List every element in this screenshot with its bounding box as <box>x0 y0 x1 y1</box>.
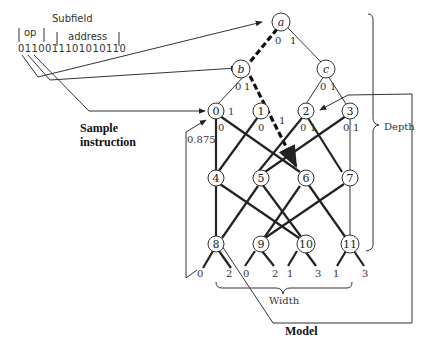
network-node-0: 0 <box>208 103 224 119</box>
svg-text:3: 3 <box>347 105 354 118</box>
svg-text:1: 1 <box>290 35 296 46</box>
svg-text:10: 10 <box>299 238 313 251</box>
model-label: Model <box>285 324 318 338</box>
svg-text:3: 3 <box>362 268 368 279</box>
depth-brace: Depth <box>366 14 415 251</box>
svg-text:1: 1 <box>333 268 339 279</box>
svg-text:0: 0 <box>258 122 264 133</box>
network-node-5: 5 <box>253 170 269 186</box>
tree-node-a: a <box>272 13 290 31</box>
svg-text:7: 7 <box>347 172 354 185</box>
bit-connectors <box>22 22 262 111</box>
svg-text:1: 1 <box>244 81 250 92</box>
svg-text:0: 0 <box>243 268 249 279</box>
network-node-11: 11 <box>341 235 359 253</box>
svg-text:11: 11 <box>343 238 357 251</box>
tree-node-b: b <box>232 60 250 78</box>
address-label: address <box>68 31 107 42</box>
svg-text:8: 8 <box>213 238 220 251</box>
svg-text:1: 1 <box>330 81 336 92</box>
network-node-4: 4 <box>208 170 224 186</box>
svg-text:1: 1 <box>353 122 359 133</box>
network-node-2: 2 <box>298 103 314 119</box>
tree-node-c: c <box>317 60 335 78</box>
sample-instruction: Subfield op address 0110011101010110 Sam… <box>18 13 136 149</box>
svg-text:6: 6 <box>303 172 310 185</box>
svg-text:a: a <box>278 16 285 29</box>
svg-text:2: 2 <box>272 268 278 279</box>
svg-text:c: c <box>323 63 329 76</box>
svg-text:0: 0 <box>197 268 203 279</box>
svg-text:1: 1 <box>258 105 265 118</box>
svg-text:2: 2 <box>303 105 310 118</box>
svg-text:1: 1 <box>310 122 316 133</box>
svg-text:0: 0 <box>275 35 281 46</box>
network-node-1: 1 <box>253 103 269 119</box>
svg-text:0: 0 <box>300 122 306 133</box>
svg-text:1: 1 <box>287 268 293 279</box>
svg-text:0: 0 <box>213 105 220 118</box>
width-label: Width <box>269 295 300 306</box>
svg-text:0: 0 <box>343 122 349 133</box>
svg-text:b: b <box>237 63 244 76</box>
svg-text:1: 1 <box>228 106 234 117</box>
svg-text:0: 0 <box>235 81 241 92</box>
network-node-3: 3 <box>342 103 358 119</box>
network-edges <box>203 116 364 268</box>
svg-text:2: 2 <box>226 268 232 279</box>
svg-text:1: 1 <box>279 115 285 126</box>
diagram-canvas: Subfield op address 0110011101010110 Sam… <box>0 0 431 351</box>
svg-text:5: 5 <box>258 172 265 185</box>
depth-label: Depth <box>384 121 415 132</box>
network-node-7: 7 <box>342 170 358 186</box>
svg-text:3: 3 <box>315 268 321 279</box>
subfield-label: Subfield <box>52 13 93 24</box>
op-label: op <box>24 27 36 38</box>
network-node-6: 6 <box>298 170 314 186</box>
sample-label-line2: instruction <box>80 135 136 149</box>
svg-text:0: 0 <box>320 81 326 92</box>
svg-text:0: 0 <box>218 122 224 133</box>
svg-text:9: 9 <box>258 238 265 251</box>
output-labels: 0 2 0 2 1 3 1 3 <box>197 268 368 279</box>
svg-text:4: 4 <box>213 172 220 185</box>
network-node-9: 9 <box>253 236 269 252</box>
width-brace: Width <box>216 282 352 306</box>
network-node-8: 8 <box>208 236 224 252</box>
feedback-weight: 0.875 <box>187 134 216 145</box>
network-node-10: 10 <box>297 235 315 253</box>
sample-label-line1: Sample <box>80 121 119 135</box>
instruction-bits: 0110011101010110 <box>18 43 126 54</box>
